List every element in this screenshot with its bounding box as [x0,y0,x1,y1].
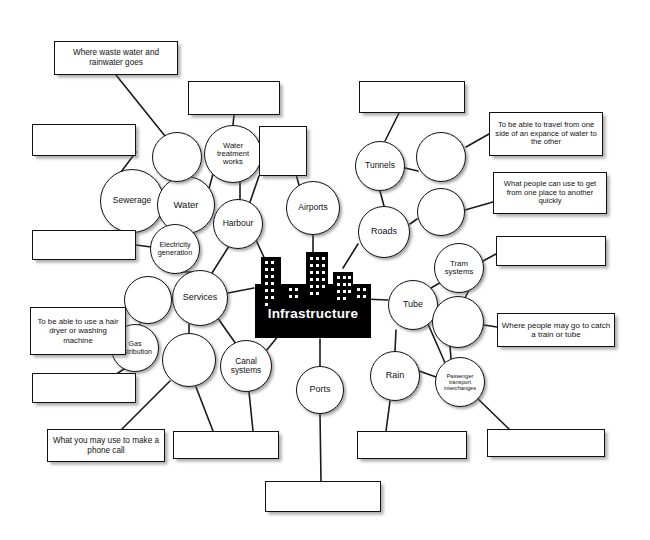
node-blank-tube-e[interactable] [432,296,484,348]
node-label: Tram systems [435,260,483,277]
node-label: Passenger transport interchanges [436,373,484,391]
box-waste-water[interactable]: Where waste water and rainwater goes [54,41,178,75]
node-rail[interactable]: Rain [370,351,420,401]
box-label: Where people may go to catch a train or … [498,321,614,340]
node-interchanges[interactable]: Passenger transport interchanges [435,357,485,407]
node-tube[interactable]: Tube [388,280,438,330]
node-label: Tunnels [363,161,397,170]
node-label: Roads [369,227,399,237]
node-tram[interactable]: Tram systems [434,243,484,293]
box-label: To be able to travel from one side of an… [490,121,602,148]
node-blank-services-nw[interactable] [124,276,172,324]
box-box-tram-blank[interactable] [496,236,606,266]
node-services[interactable]: Services [172,270,228,326]
box-box-gas-blank[interactable] [32,373,136,403]
box-box-tunnels-blank[interactable] [359,81,465,113]
box-box-bottom-2-blank[interactable] [357,431,467,459]
node-airports[interactable]: Airports [286,181,340,235]
box-box-bottom-3-blank[interactable] [487,429,605,457]
node-label: Water [172,200,201,210]
node-water-treatment[interactable]: Water treatment works [204,125,262,183]
node-blank-harbour-e[interactable] [416,132,466,182]
node-ports[interactable]: Ports [296,366,344,414]
box-hair-dryer[interactable]: To be able to use a hair dryer or washin… [30,307,126,355]
node-label: Airports [296,203,329,212]
box-expance[interactable]: To be able to travel from one side of an… [489,112,603,156]
node-label: Canal systems [221,357,271,375]
mind-map-canvas: Infrastructure SewerageWaterWater treatm… [0,0,650,540]
node-label: Electricity generation [151,241,199,257]
box-box-bottom-4-blank[interactable] [265,481,381,512]
node-harbour[interactable]: Harbour [213,199,263,249]
node-electricity[interactable]: Electricity generation [150,224,200,274]
node-blank-roads-e[interactable] [417,188,465,236]
node-blank-services-s[interactable] [162,333,216,387]
node-blank-water-top[interactable] [152,132,202,182]
node-label: Ports [307,385,332,395]
node-sewerage[interactable]: Sewerage [100,169,164,233]
box-box-harbour-blank[interactable] [259,126,307,176]
box-label: Where waste water and rainwater goes [55,48,177,67]
box-box-water-top-blank[interactable] [188,81,280,115]
box-label: What people can use to get from one plac… [494,180,606,207]
box-box-top-left-blank[interactable] [32,124,136,156]
node-canal[interactable]: Canal systems [220,340,272,392]
node-label: Harbour [221,219,256,228]
box-catch-train[interactable]: Where people may go to catch a train or … [497,313,615,347]
node-label: Water treatment works [205,142,261,167]
node-label: Sewerage [111,196,153,205]
node-label: Tube [401,300,425,310]
node-label: Rain [384,371,407,381]
box-phone-call[interactable]: What you may use to make a phone call [47,429,165,462]
box-label: To be able to use a hair dryer or washin… [31,317,125,345]
box-label: What you may use to make a phone call [48,436,164,455]
box-quickly[interactable]: What people can use to get from one plac… [493,172,607,214]
city-skyline-icon [255,250,371,338]
box-box-left-mid-blank[interactable] [32,230,136,260]
box-box-bottom-1-blank[interactable] [173,431,279,459]
node-label: Services [181,293,220,303]
node-tunnels[interactable]: Tunnels [355,141,405,191]
